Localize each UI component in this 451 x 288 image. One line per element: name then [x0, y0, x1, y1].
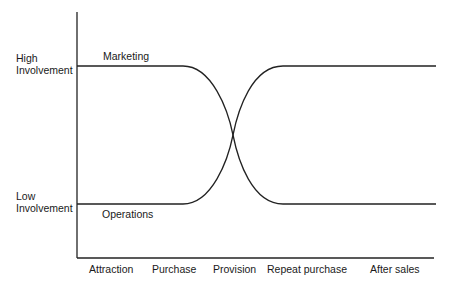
y-label-high-line1: High [16, 52, 73, 64]
x-label-attraction: Attraction [89, 263, 133, 275]
series-label-marketing: Marketing [103, 50, 149, 62]
y-label-low-line2: Involvement [16, 202, 73, 214]
y-label-high: High Involvement [16, 52, 73, 76]
series-label-operations: Operations [102, 208, 153, 220]
x-label-purchase: Purchase [152, 263, 196, 275]
marketing-curve [77, 66, 436, 204]
y-label-low: Low Involvement [16, 190, 73, 214]
x-label-provision: Provision [213, 263, 256, 275]
y-label-low-line1: Low [16, 190, 73, 202]
x-label-after-sales: After sales [370, 263, 420, 275]
x-label-repeat-purchase: Repeat purchase [267, 263, 347, 275]
y-label-high-line2: Involvement [16, 64, 73, 76]
diagram-canvas [0, 0, 451, 288]
operations-curve [77, 66, 436, 204]
